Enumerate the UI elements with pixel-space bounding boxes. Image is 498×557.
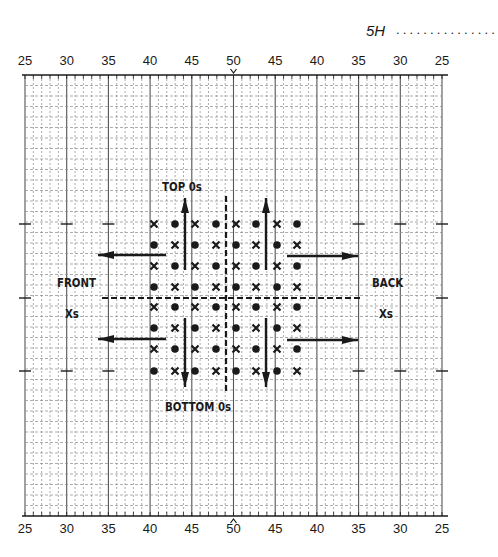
dot-marker-icon	[232, 367, 240, 375]
label-back: BACK	[372, 276, 403, 290]
cross-marker-icon	[151, 263, 158, 270]
label-top: TOP 0s	[162, 180, 202, 194]
label-front: FRONT	[57, 276, 96, 290]
dot-marker-icon	[150, 283, 158, 291]
dot-marker-icon	[212, 303, 220, 311]
cross-marker-icon	[274, 304, 281, 311]
cross-marker-icon	[192, 346, 199, 353]
cross-marker-icon	[192, 304, 199, 311]
dot-marker-icon	[232, 283, 240, 291]
dot-marker-icon	[171, 220, 179, 228]
center-marker-bottom-icon	[231, 519, 237, 523]
dot-marker-icon	[273, 241, 281, 249]
dot-marker-icon	[252, 303, 260, 311]
cross-marker-icon	[294, 325, 301, 332]
label-back-sub: Xs	[379, 307, 393, 321]
cross-marker-icon	[213, 368, 220, 375]
dot-marker-icon	[293, 303, 301, 311]
dot-marker-icon	[273, 367, 281, 375]
dot-marker-icon	[150, 367, 158, 375]
dot-marker-icon	[191, 367, 199, 375]
cross-marker-icon	[274, 346, 281, 353]
arrow-down-icon	[262, 372, 270, 387]
dot-marker-icon	[293, 220, 301, 228]
arrow-up-icon	[262, 198, 270, 213]
cross-marker-icon	[172, 325, 179, 332]
cross-marker-icon	[151, 221, 158, 228]
dot-marker-icon	[273, 324, 281, 332]
dot-marker-icon	[232, 241, 240, 249]
dot-marker-icon	[252, 220, 260, 228]
dot-marker-icon	[293, 345, 301, 353]
cross-marker-icon	[294, 284, 301, 291]
cross-marker-icon	[294, 368, 301, 375]
dot-marker-icon	[273, 283, 281, 291]
dot-marker-icon	[232, 324, 240, 332]
cross-marker-icon	[294, 242, 301, 249]
dot-marker-icon	[212, 345, 220, 353]
cross-marker-icon	[274, 221, 281, 228]
dot-marker-icon	[150, 241, 158, 249]
dot-marker-icon	[171, 303, 179, 311]
cross-marker-icon	[274, 263, 281, 270]
cross-marker-icon	[192, 263, 199, 270]
cross-marker-icon	[213, 284, 220, 291]
label-front-sub: Xs	[65, 307, 79, 321]
cross-marker-icon	[192, 221, 199, 228]
dot-marker-icon	[293, 262, 301, 270]
dot-marker-icon	[212, 220, 220, 228]
cross-marker-icon	[151, 304, 158, 311]
dot-marker-icon	[191, 241, 199, 249]
dot-marker-icon	[150, 324, 158, 332]
arrow-up-icon	[181, 198, 189, 213]
cross-marker-icon	[213, 325, 220, 332]
dot-marker-icon	[171, 345, 179, 353]
label-bottom: BOTTOM 0s	[165, 400, 231, 414]
cross-marker-icon	[213, 242, 220, 249]
dot-marker-icon	[191, 283, 199, 291]
dot-marker-icon	[252, 262, 260, 270]
center-marker-top-icon	[231, 69, 237, 73]
dot-marker-icon	[191, 324, 199, 332]
dot-marker-icon	[252, 345, 260, 353]
dot-marker-icon	[212, 262, 220, 270]
cross-marker-icon	[151, 346, 158, 353]
dot-marker-icon	[171, 262, 179, 270]
